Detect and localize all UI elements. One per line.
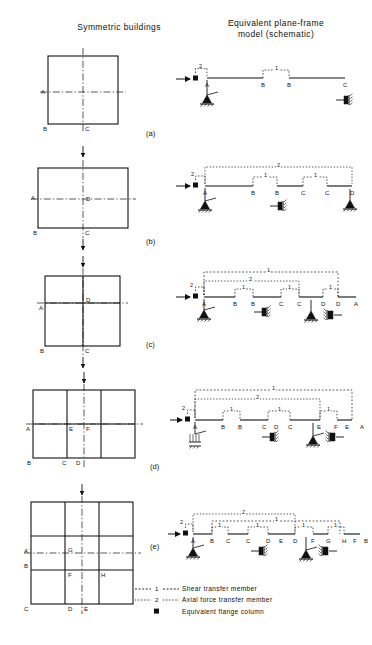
legend-label-axial: Axial force transfer member (182, 594, 368, 605)
building-label-b-C: C (85, 230, 89, 236)
frame-link-d-4: 2 (255, 394, 260, 400)
panel-letter-a: (a) (146, 129, 155, 138)
frame-node-d-0: A (193, 424, 197, 430)
frame-link-c-1: 1 (241, 284, 246, 290)
frame-node-c-0: A (202, 301, 206, 307)
building-label-b-A: A (31, 195, 35, 201)
svg-text:1: 1 (155, 585, 159, 592)
building-label-d-F: F (86, 426, 90, 432)
frame-node-e-9: H (342, 538, 346, 544)
frame-node-a-2: B (287, 82, 291, 88)
legend-label-shear: Shear transfer member (182, 583, 368, 594)
frame-link-e-4: 1 (255, 522, 260, 528)
building-label-e-E: E (84, 606, 88, 612)
building-label-e-G: G (68, 547, 73, 553)
building-label-d-A: A (26, 426, 30, 432)
frame-node-a-1: B (261, 82, 265, 88)
building-label-e-F: F (68, 572, 72, 578)
support-roller-d2 (326, 431, 345, 442)
support-roller-e2 (319, 545, 338, 556)
frame-e (168, 514, 360, 562)
frame-node-d-2: B (238, 424, 242, 430)
frame-node-b-5: D (350, 190, 354, 196)
building-label-b-B: B (33, 230, 37, 236)
support-roller-a1 (336, 94, 353, 105)
frame-node-e-6: D (293, 538, 297, 544)
building-a (40, 48, 126, 133)
frame-node-b-0: A (203, 190, 207, 196)
frame-node-d-9: A (360, 424, 364, 430)
building-label-d-C: C (62, 460, 66, 466)
frame-link-e-2: 1 (274, 516, 279, 522)
building-label-a-B: B (43, 126, 47, 132)
frame-node-b-4: C (325, 190, 329, 196)
frame-link-e-6: 1 (333, 522, 338, 528)
frame-node-d-4: D (274, 424, 278, 430)
building-d (26, 372, 143, 468)
frame-node-d-3: C (262, 424, 266, 430)
frame-link-b-3: 2 (276, 162, 281, 168)
panel-letter-c: (c) (146, 340, 155, 349)
building-label-c-C: C (85, 348, 89, 354)
panel-letter-d: (d) (150, 462, 159, 471)
frame-link-b-2: 1 (313, 172, 318, 178)
frame-node-a-3: C (343, 82, 347, 88)
legend-row-axial: 2 Axial force transfer member (132, 594, 368, 605)
building-label-c-A: A (39, 305, 43, 311)
support-roller-d1 (262, 431, 279, 442)
frame-node-c-1: B (233, 301, 237, 307)
legend-row-shear: 1 Shear transfer member (132, 583, 368, 594)
legend-row-flange: Equivalent flange column (132, 606, 368, 617)
building-label-c-B: B (40, 348, 44, 354)
frame-node-d-1: B (221, 424, 225, 430)
frame-node-d-5: C (288, 424, 292, 430)
frame-node-e-10: F (353, 538, 357, 544)
frame-node-d-7: F (334, 424, 338, 430)
support-roller-e1 (251, 545, 268, 556)
axial-force-transfer-icon: 2 (132, 596, 182, 604)
frame-link-b-0: 2 (191, 171, 194, 177)
support-roller-c2 (324, 309, 343, 320)
frame-link-c-2: 1 (287, 284, 292, 290)
frame-d (170, 390, 352, 449)
support-roller-b1 (270, 200, 287, 211)
frame-node-e-3: C (246, 538, 250, 544)
frame-link-e-5: 1 (301, 522, 306, 528)
frame-node-e-2: C (226, 538, 230, 544)
building-label-e-A: A (24, 548, 28, 554)
building-label-e-B: B (24, 563, 28, 569)
frame-node-c-7: A (354, 301, 358, 307)
frame-node-e-4: D (266, 538, 270, 544)
frame-node-c-3: C (279, 301, 283, 307)
frame-node-e-11: B (364, 538, 368, 544)
frame-node-c-2: B (251, 301, 255, 307)
frame-node-c-6: D (336, 301, 340, 307)
building-label-d-B: B (27, 460, 31, 466)
frame-node-e-1: B (210, 538, 214, 544)
frame-node-c-5: D (321, 301, 325, 307)
building-label-c-D: D (86, 297, 90, 303)
frame-node-b-2: B (275, 190, 279, 196)
frame-link-a-0: 2 (199, 63, 202, 69)
building-label-d-E: E (69, 426, 73, 432)
frame-node-b-3: C (301, 190, 305, 196)
frame-link-c-4: 1 (266, 267, 271, 273)
panel-letter-e: (e) (150, 542, 159, 551)
building-label-e-H: H (101, 572, 105, 578)
frame-link-e-0: 2 (180, 519, 183, 525)
building-e (24, 484, 141, 614)
building-label-d-D: D (76, 460, 80, 466)
frame-node-b-1: B (251, 190, 255, 196)
building-label-a-C: C (85, 126, 89, 132)
svg-text:2: 2 (155, 596, 159, 603)
frame-c (176, 272, 356, 323)
frame-link-d-2: 1 (277, 406, 282, 412)
flange-column-icon (132, 607, 182, 615)
panel-letter-b: (b) (146, 237, 155, 246)
frame-link-c-3: 1 (328, 284, 333, 290)
shear-transfer-icon: 1 (132, 585, 182, 593)
frame-link-c-0: 2 (190, 282, 193, 288)
building-label-e-D: D (68, 606, 72, 612)
frame-node-d-6: E (317, 424, 321, 430)
legend-label-flange: Equivalent flange column (182, 606, 368, 617)
